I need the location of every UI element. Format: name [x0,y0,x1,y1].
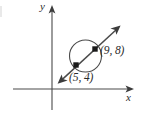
x-axis-label: x [126,92,131,103]
x-axis [13,86,134,93]
y-axis [49,5,56,110]
point-label-upper: (9, 8) [100,45,124,57]
figure-canvas [0,0,142,115]
coordinate-plane-figure: y x (9, 8) (5, 4) [0,0,142,115]
point-marker-lower [73,62,78,67]
point-label-lower: (5, 4) [69,72,93,84]
y-axis-label: y [40,1,45,12]
point-marker-upper [92,46,97,51]
